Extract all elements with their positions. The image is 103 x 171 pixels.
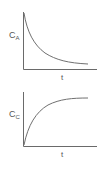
y-axis-label: CA <box>9 30 20 41</box>
chart-cc-rise: CC t <box>9 92 97 159</box>
diagram-canvas: CA t CC t <box>0 0 103 171</box>
chart-ca-decay: CA t <box>9 12 97 82</box>
rise-curve <box>24 98 88 145</box>
decay-curve <box>24 13 88 64</box>
y-axis-label: CC <box>9 109 21 120</box>
x-axis-label: t <box>61 73 64 82</box>
x-axis-label: t <box>61 150 64 159</box>
